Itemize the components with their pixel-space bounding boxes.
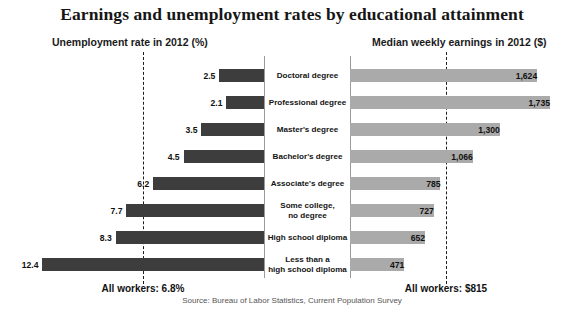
unemployment-bar — [116, 231, 264, 244]
earnings-value-label: 785 — [350, 177, 444, 190]
category-label: Less than ahigh school diploma — [265, 251, 350, 278]
chart-row: 7.7Some college,no degree727 — [0, 197, 584, 224]
chart-row: 12.4Less than ahigh school diploma471 — [0, 251, 584, 278]
left-axis-subtitle: Unemployment rate in 2012 (%) — [52, 36, 208, 48]
category-label: High school diploma — [265, 224, 350, 251]
chart-row: 6.2Associate's degree785 — [0, 170, 584, 197]
unemployment-value-label: 2.1 — [211, 96, 223, 109]
chart-container: Earnings and unemployment rates by educa… — [0, 0, 584, 322]
earnings-value-label: 727 — [350, 204, 438, 217]
category-label: Some college,no degree — [265, 197, 350, 224]
unemployment-bar — [226, 96, 264, 109]
earnings-value-label: 1,066 — [350, 150, 477, 163]
chart-row: 3.5Master's degree1,300 — [0, 116, 584, 143]
category-label: Associate's degree — [265, 170, 350, 197]
unemployment-bar — [126, 204, 264, 217]
unemployment-value-label: 3.5 — [186, 123, 198, 136]
chart-row: 2.1Professional degree1,735 — [0, 89, 584, 116]
unemployment-bar — [153, 177, 264, 190]
unemployment-bar — [201, 123, 264, 136]
unemployment-bar — [184, 150, 264, 163]
chart-row: 2.5Doctoral degree1,624 — [0, 62, 584, 89]
category-label: Bachelor's degree — [265, 143, 350, 170]
unemployment-value-label: 8.3 — [100, 231, 112, 244]
category-label: Master's degree — [265, 116, 350, 143]
unemployment-value-label: 12.4 — [22, 258, 39, 271]
all-workers-earnings-note: All workers: $815 — [405, 283, 487, 294]
chart-row: 8.3High school diploma652 — [0, 224, 584, 251]
earnings-value-label: 1,300 — [350, 123, 504, 136]
unemployment-value-label: 6.2 — [137, 177, 149, 190]
right-axis-subtitle: Median weekly earnings in 2012 ($) — [372, 36, 547, 48]
unemployment-value-label: 2.5 — [203, 69, 215, 82]
unemployment-bar — [42, 258, 264, 271]
unemployment-value-label: 7.7 — [110, 204, 122, 217]
category-label: Doctoral degree — [265, 62, 350, 89]
chart-row: 4.5Bachelor's degree1,066 — [0, 143, 584, 170]
unemployment-value-label: 4.5 — [168, 150, 180, 163]
source-note: Source: Bureau of Labor Statistics, Curr… — [0, 296, 584, 305]
earnings-value-label: 1,735 — [350, 96, 554, 109]
earnings-value-label: 471 — [350, 258, 408, 271]
unemployment-bar — [219, 69, 264, 82]
earnings-value-label: 1,624 — [350, 69, 541, 82]
all-workers-unemployment-note: All workers: 6.8% — [102, 283, 185, 294]
category-label: Professional degree — [265, 89, 350, 116]
earnings-value-label: 652 — [350, 231, 429, 244]
chart-title: Earnings and unemployment rates by educa… — [0, 4, 584, 25]
